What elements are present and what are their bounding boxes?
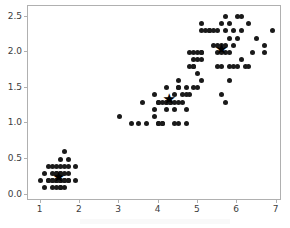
data-point [219,64,224,69]
y-axis-tick [24,51,27,52]
scatter-plot-figure: ★★★ 12345670.00.51.01.52.02.5 [0,0,290,228]
data-point [176,78,181,83]
data-point [152,92,157,97]
data-point [160,121,165,126]
data-point [246,64,251,69]
x-axis-tick-label: 1 [37,204,43,214]
data-point [239,14,244,19]
data-point [136,121,141,126]
data-point [270,28,275,33]
x-axis-tick [236,200,237,203]
y-axis-tick [24,16,27,17]
data-point [46,178,51,183]
data-point [199,21,204,26]
data-point [66,178,71,183]
data-point [38,178,43,183]
y-axis-tick-label: 0.0 [8,189,22,199]
y-axis-tick-label: 2.5 [8,11,22,21]
data-point [152,114,157,119]
data-point [176,85,181,90]
x-axis-tick [158,200,159,203]
x-axis-tick-label: 7 [273,204,279,214]
data-point [199,57,204,62]
data-point [62,149,67,154]
x-axis-tick [40,200,41,203]
data-point [199,78,204,83]
data-point [250,50,255,55]
data-point [227,21,232,26]
x-axis-tick-label: 5 [194,204,200,214]
data-point [239,57,244,62]
data-point [42,171,47,176]
data-point [58,157,63,162]
x-axis-tick [276,200,277,203]
y-axis-tick-label: 2.0 [8,46,22,56]
data-point [223,14,228,19]
data-point [184,121,189,126]
data-point [239,28,244,33]
data-point [219,92,224,97]
data-point [262,43,267,48]
data-point [231,28,236,33]
data-point [184,85,189,90]
data-point [235,64,240,69]
data-point [140,100,145,105]
x-axis-tick-label: 2 [76,204,82,214]
data-point [73,178,78,183]
data-point [129,121,134,126]
data-point [66,157,71,162]
y-axis-tick [24,194,27,195]
x-axis-tick [118,200,119,203]
footer-artifact [80,219,230,224]
data-point [199,50,204,55]
data-point [187,92,192,97]
data-point [191,64,196,69]
data-point [195,71,200,76]
data-point [235,36,240,41]
data-point [184,107,189,112]
x-axis-tick-label: 6 [233,204,239,214]
data-point [219,21,224,26]
y-axis-tick [24,158,27,159]
y-axis-tick [24,122,27,123]
data-point [66,164,71,169]
data-point [144,121,149,126]
data-point [180,100,185,105]
data-point [262,50,267,55]
x-axis-tick [197,200,198,203]
y-axis-tick-label: 1.0 [8,117,22,127]
data-point [223,28,228,33]
data-point [227,78,232,83]
data-point [42,185,47,190]
x-axis-tick [79,200,80,203]
data-point [246,21,251,26]
data-point [215,28,220,33]
y-axis-tick-label: 1.5 [8,82,22,92]
y-axis-tick-label: 0.5 [8,153,22,163]
data-point [195,85,200,90]
data-point [254,36,259,41]
plot-axes-area: ★★★ [27,5,281,200]
data-point [117,114,122,119]
data-point [172,121,177,126]
data-point [231,43,236,48]
y-axis-tick [24,87,27,88]
x-axis-tick-label: 4 [155,204,161,214]
data-point [73,164,78,169]
data-point [223,100,228,105]
data-point [152,107,157,112]
x-axis-tick-label: 3 [115,204,121,214]
